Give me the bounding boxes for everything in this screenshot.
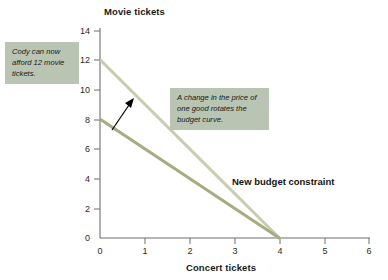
y-tick-label-2: 2 xyxy=(72,204,90,214)
y-tick-label-4: 4 xyxy=(72,174,90,184)
callout-afford-movie-tickets: Cody can now afford 12 movie tickets. xyxy=(5,42,79,84)
x-tick-label-2: 2 xyxy=(181,246,199,256)
rotation-arrow-icon xyxy=(112,98,134,130)
x-tick-label-4: 4 xyxy=(271,246,289,256)
y-tick-label-0: 0 xyxy=(72,233,90,243)
y-tick-label-8: 8 xyxy=(72,115,90,125)
callout-price-change-rotates: A change in the price of one good rotate… xyxy=(170,88,269,130)
y-tick-label-10: 10 xyxy=(72,85,90,95)
budget-constraint-chart: Movie tickets Concert tickets xyxy=(0,0,388,280)
x-tick-label-0: 0 xyxy=(91,246,109,256)
x-axis-ticks xyxy=(145,238,369,244)
x-tick-label-6: 6 xyxy=(360,246,378,256)
y-axis-ticks xyxy=(94,31,100,209)
y-tick-label-14: 14 xyxy=(72,26,90,36)
x-tick-label-3: 3 xyxy=(226,246,244,256)
x-tick-label-1: 1 xyxy=(136,246,154,256)
new-budget-constraint-label: New budget constraint xyxy=(232,176,334,187)
y-tick-label-6: 6 xyxy=(72,144,90,154)
x-tick-label-5: 5 xyxy=(316,246,334,256)
